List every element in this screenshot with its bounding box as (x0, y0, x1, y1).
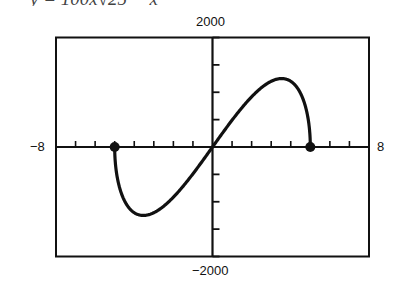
endpoint-dot (110, 142, 120, 152)
function-plot (0, 0, 399, 287)
x-min-label: −8 (30, 139, 45, 154)
y-min-label: −2000 (192, 263, 229, 278)
y-max-label: 2000 (196, 14, 225, 29)
x-max-label: 8 (377, 139, 384, 154)
endpoint-dot (305, 142, 315, 152)
